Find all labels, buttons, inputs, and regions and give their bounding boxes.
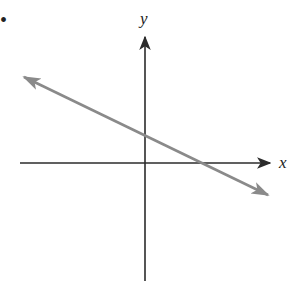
coordinate-plane: • x y: [0, 0, 290, 282]
x-axis-label: x: [278, 153, 287, 172]
y-axis-label: y: [138, 9, 148, 28]
bullet-marker: •: [0, 9, 7, 31]
graphed-line: [24, 77, 268, 195]
